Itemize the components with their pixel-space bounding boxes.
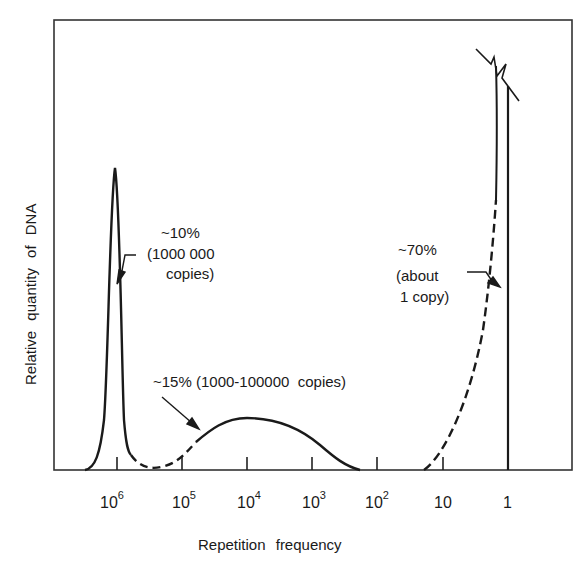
annotation-70-percent-copy: 1 copy) bbox=[400, 288, 449, 305]
svg-text:102: 102 bbox=[365, 489, 389, 511]
svg-text:10: 10 bbox=[434, 494, 452, 511]
trough-dashed bbox=[131, 442, 196, 468]
plot-frame bbox=[54, 20, 572, 470]
svg-text:103: 103 bbox=[302, 489, 326, 511]
svg-text:105: 105 bbox=[172, 489, 196, 511]
peak-highly-repetitive bbox=[85, 168, 131, 470]
annotation-70-percent-about: (about bbox=[396, 267, 439, 284]
x-ticks bbox=[117, 457, 443, 470]
annotation-10-percent-copies: (1000 000 bbox=[147, 245, 215, 262]
annotation-10-percent: ~10% bbox=[161, 224, 200, 241]
chart: ~10% (1000 000 copies) ~15% (1000-100000… bbox=[0, 0, 587, 566]
y-axis-label: Relative quantity of DNA bbox=[22, 204, 39, 385]
x-axis-label: Repetition frequency bbox=[198, 536, 342, 553]
unique-dna-left-edge bbox=[496, 66, 497, 200]
svg-text:104: 104 bbox=[237, 489, 261, 511]
annotation-70-percent: ~70% bbox=[398, 241, 437, 258]
svg-text:1: 1 bbox=[503, 494, 512, 511]
svg-text:106: 106 bbox=[100, 489, 124, 511]
peak-moderately-repetitive bbox=[196, 418, 360, 470]
annotation-10-percent-copies-end: copies) bbox=[166, 265, 214, 282]
x-tick-labels: 106 105 104 103 102 10 1 bbox=[100, 489, 512, 511]
annotation-15-percent: ~15% (1000-100000 copies) bbox=[153, 373, 346, 390]
